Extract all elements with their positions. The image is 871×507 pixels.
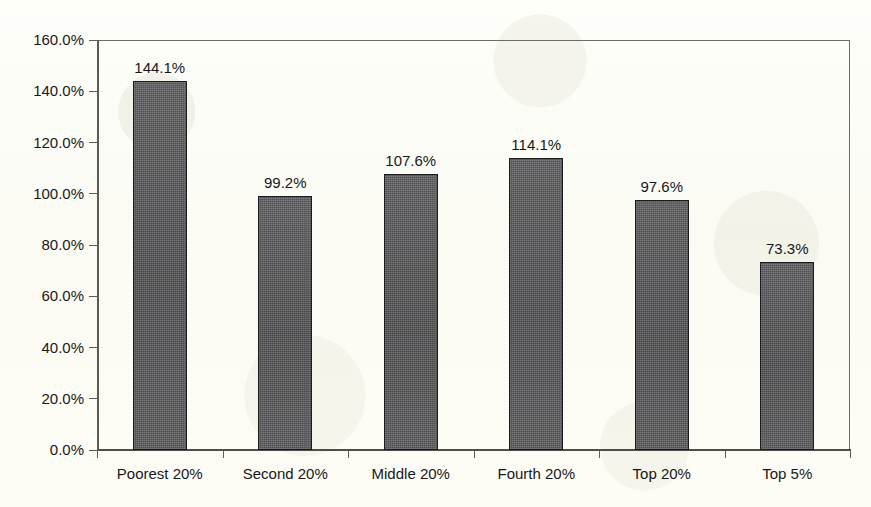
y-axis-label-text: 140.0% (33, 83, 84, 98)
y-axis-label: 20.0% (6, 399, 84, 400)
y-axis-label-text: 80.0% (41, 237, 84, 252)
x-axis-category-label: Top 20% (599, 466, 725, 483)
y-axis-tick (89, 40, 98, 41)
x-axis-tick (348, 450, 349, 458)
bar-value-label: 114.1% (476, 137, 596, 152)
y-axis-line (97, 40, 99, 451)
y-axis-tick (89, 347, 98, 348)
bar (635, 200, 689, 450)
x-axis-tick (97, 450, 98, 458)
bar-value-label: 97.6% (602, 179, 722, 194)
x-axis-tick (474, 450, 475, 458)
y-axis-label-text: 100.0% (33, 186, 84, 201)
y-axis-tick (89, 142, 98, 143)
y-axis-tick (89, 398, 98, 399)
y-axis-tick (89, 245, 98, 246)
y-axis-label-text: 120.0% (33, 135, 84, 150)
y-axis-label: 120.0% (6, 143, 84, 144)
bar-value-label: 73.3% (727, 241, 847, 256)
y-axis-label-text: 160.0% (33, 32, 84, 47)
x-axis-category-label: Poorest 20% (97, 466, 223, 483)
bar (258, 196, 312, 450)
x-axis-tick (223, 450, 224, 458)
bar (384, 174, 438, 450)
bar-chart: 160.0%140.0%120.0%100.0%80.0%60.0%40.0%2… (0, 0, 871, 507)
bar (133, 81, 187, 450)
y-axis-tick (89, 91, 98, 92)
chart-screenshot: 160.0%140.0%120.0%100.0%80.0%60.0%40.0%2… (0, 0, 871, 507)
bar (509, 158, 563, 450)
x-axis-tick (599, 450, 600, 458)
y-axis-tick (89, 193, 98, 194)
y-axis-label: 0.0% (6, 450, 84, 451)
y-axis-label: 40.0% (6, 348, 84, 349)
bar-value-label: 99.2% (225, 175, 345, 190)
x-axis-category-label: Top 5% (725, 466, 851, 483)
bar (760, 262, 814, 450)
y-axis-label: 80.0% (6, 245, 84, 246)
bar-value-label: 144.1% (100, 60, 220, 75)
y-axis-label: 60.0% (6, 296, 84, 297)
y-axis-label-text: 40.0% (41, 340, 84, 355)
x-axis-tick (725, 450, 726, 458)
y-axis-tick (89, 296, 98, 297)
y-axis-label-text: 20.0% (41, 391, 84, 406)
bar-value-label: 107.6% (351, 153, 471, 168)
y-axis-label: 140.0% (6, 91, 84, 92)
y-axis-label-text: 60.0% (41, 288, 84, 303)
y-axis-label: 100.0% (6, 194, 84, 195)
x-axis-category-label: Fourth 20% (474, 466, 600, 483)
y-axis-label: 160.0% (6, 40, 84, 41)
x-axis-category-label: Second 20% (223, 466, 349, 483)
x-axis-tick (850, 450, 851, 458)
x-axis-category-label: Middle 20% (348, 466, 474, 483)
y-axis-label-text: 0.0% (50, 442, 84, 457)
